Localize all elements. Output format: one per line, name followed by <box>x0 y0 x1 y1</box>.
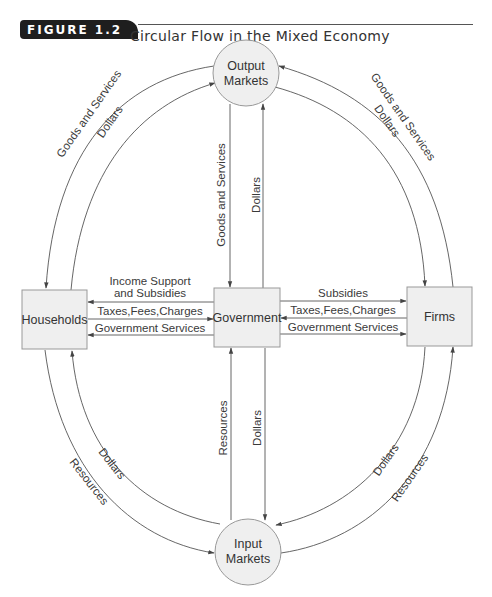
circular-flow-diagram: Output Markets Input Markets Households … <box>0 0 492 597</box>
arrow-dollars-input-to-households <box>72 351 220 524</box>
output-gov-goods-label: Goods and Services <box>215 143 227 247</box>
output-markets-label-1: Output <box>227 59 265 73</box>
gov-input-dollars-label: Dollars <box>251 410 263 446</box>
firms-label: Firms <box>424 310 455 324</box>
firm-input-resources-label: Resources <box>389 452 431 504</box>
output-markets-node <box>213 40 279 106</box>
hh-input-resources-label: Resources <box>68 456 111 507</box>
arrow-goods-output-to-households <box>46 66 214 288</box>
hh-services-label: Government Services <box>95 322 206 334</box>
arrow-dollars-firms-to-input <box>276 347 425 525</box>
government-label: Government <box>213 311 282 325</box>
firm-input-dollars-label: Dollars <box>371 441 401 477</box>
gov-output-dollars-label: Dollars <box>250 177 262 213</box>
input-markets-label-1: Input <box>234 537 262 551</box>
arrow-resources-input-to-firms <box>281 347 453 553</box>
hh-taxes-label: Taxes,Fees,Charges <box>97 305 203 317</box>
arrow-resources-households-to-input <box>45 350 214 553</box>
hh-input-dollars-label: Dollars <box>96 446 128 482</box>
arrow-goods-firms-to-output <box>279 66 453 287</box>
households-label: Households <box>21 313 87 327</box>
output-markets-label-2: Markets <box>224 74 268 88</box>
firm-taxes-label: Taxes,Fees,Charges <box>290 304 396 316</box>
firm-subsidies-label: Subsidies <box>318 287 368 299</box>
income-support-label-1: Income Support <box>109 275 191 287</box>
firm-services-label: Government Services <box>288 321 399 333</box>
input-gov-resources-label: Resources <box>217 400 229 455</box>
income-support-label-2: and Subsidies <box>114 287 186 299</box>
input-markets-label-2: Markets <box>226 552 270 566</box>
